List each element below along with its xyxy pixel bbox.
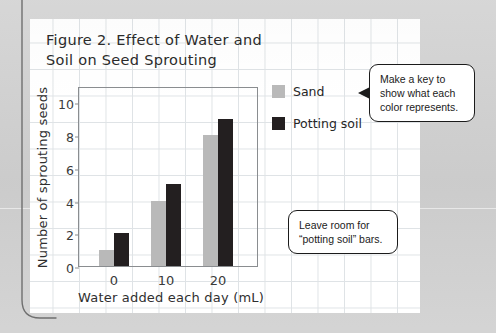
legend-label-potting-soil: Potting soil — [293, 116, 362, 131]
bar-sand-0 — [99, 250, 114, 266]
bar-soil-20 — [218, 119, 233, 266]
y-tick-mark-6 — [75, 169, 79, 170]
y-tick-mark-10 — [75, 104, 79, 105]
legend-item-potting-soil: Potting soil — [272, 116, 362, 131]
y-tick-mark-4 — [75, 202, 79, 203]
chart-legend: Sand Potting soil — [272, 84, 362, 148]
x-tick-label-20: 20 — [210, 273, 227, 288]
chart-title: Figure 2. Effect of Water and Soil on Se… — [46, 30, 286, 70]
x-tick-label-0: 0 — [110, 273, 118, 288]
y-tick-mark-0 — [75, 268, 79, 269]
bar-sand-10 — [151, 201, 166, 266]
y-axis-title: Number of sprouting seeds — [34, 87, 52, 267]
y-tick-mark-8 — [75, 137, 79, 138]
y-tick-label-0: 0 — [66, 261, 74, 276]
legend-swatch-sand — [272, 85, 285, 98]
callout-leave-room: Leave room for “potting soil” bars. — [288, 210, 398, 254]
y-tick-label-2: 2 — [66, 228, 74, 243]
x-axis-title: Water added each day (mL) — [78, 290, 258, 305]
bar-sand-20 — [203, 135, 218, 266]
y-tick-label-8: 8 — [66, 130, 74, 145]
y-tick-mark-2 — [75, 235, 79, 236]
callout-make-a-key: Make a key to show what each color repre… — [369, 64, 475, 122]
bar-soil-10 — [166, 184, 181, 266]
plot-area: 10 8 6 4 2 0 0 10 20 — [78, 87, 258, 267]
legend-label-sand: Sand — [293, 84, 324, 99]
y-tick-label-6: 6 — [66, 162, 74, 177]
y-tick-label-4: 4 — [66, 195, 74, 210]
legend-item-sand: Sand — [272, 84, 362, 99]
bar-soil-0 — [114, 233, 129, 266]
x-tick-label-10: 10 — [158, 273, 175, 288]
y-tick-label-10: 10 — [58, 97, 74, 112]
y-axis-title-text: Number of sprouting seeds — [36, 86, 51, 267]
legend-swatch-potting-soil — [272, 117, 285, 130]
